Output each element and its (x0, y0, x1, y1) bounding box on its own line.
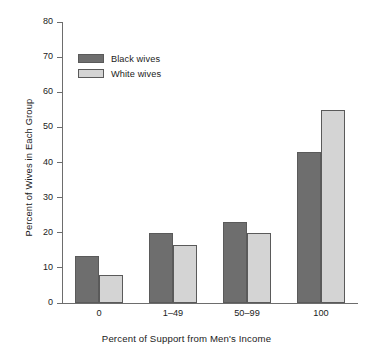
x-axis-line (62, 303, 358, 304)
x-tick-label: 0 (69, 308, 129, 318)
bar (99, 275, 123, 303)
legend-item: Black wives (78, 52, 161, 65)
bar (173, 245, 197, 303)
y-tick-label: 30 (43, 192, 53, 202)
y-tick-label: 40 (43, 157, 53, 167)
x-axis-title: Percent of Support from Men's Income (0, 333, 373, 344)
chart-legend: Black wivesWhite wives (78, 52, 161, 82)
y-tick-label: 20 (43, 227, 53, 237)
y-tick-label: 50 (43, 121, 53, 131)
bar (75, 256, 99, 303)
legend-swatch (78, 54, 104, 63)
y-axis-title: Percent of Wives in Each Group (23, 68, 34, 268)
bar (247, 233, 271, 303)
y-tick-label: 0 (48, 297, 53, 307)
x-tick-label: 100 (291, 308, 351, 318)
legend-swatch (78, 69, 104, 78)
legend-item: White wives (78, 67, 161, 80)
y-tick-label: 10 (43, 262, 53, 272)
x-tick-label: 50–99 (217, 308, 277, 318)
bar (321, 110, 345, 303)
bar-chart: Percent of Wives in Each Group 010203040… (0, 0, 373, 360)
bar (149, 233, 173, 303)
y-tick-label: 60 (43, 86, 53, 96)
legend-label: White wives (111, 69, 161, 79)
bar (297, 152, 321, 303)
y-tick-label: 80 (43, 16, 53, 26)
x-tick-label: 1–49 (143, 308, 203, 318)
legend-label: Black wives (111, 54, 160, 64)
bar (223, 222, 247, 303)
y-tick-label: 70 (43, 51, 53, 61)
